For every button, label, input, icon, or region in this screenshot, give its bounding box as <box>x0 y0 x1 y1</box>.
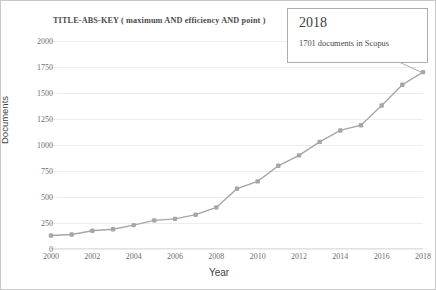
data-point-marker <box>69 232 73 236</box>
series-line <box>51 72 423 235</box>
callout-detail: 1701 documents in Scopus <box>299 39 389 48</box>
y-tick-label: 2000 <box>13 37 53 46</box>
y-tick-label: 1250 <box>13 115 53 124</box>
x-tick-label: 2016 <box>374 252 390 261</box>
x-tick-label: 2008 <box>208 252 224 261</box>
callout-box: 2018 1701 documents in Scopus <box>287 8 428 63</box>
x-tick-label: 2014 <box>332 252 348 261</box>
data-point-marker <box>255 179 259 183</box>
y-tick-label: 1750 <box>13 63 53 72</box>
data-point-marker <box>400 82 404 86</box>
x-tick-label: 2006 <box>167 252 183 261</box>
data-point-marker <box>214 205 218 209</box>
y-tick-label: 1000 <box>13 141 53 150</box>
data-point-marker <box>193 212 197 216</box>
data-point-marker <box>152 218 156 222</box>
plot-area <box>51 41 423 249</box>
x-tick-label: 2002 <box>84 252 100 261</box>
y-tick-label: 500 <box>13 193 53 202</box>
x-tick-label: 2000 <box>43 252 59 261</box>
y-tick-label: 750 <box>13 167 53 176</box>
x-tick-label: 2010 <box>250 252 266 261</box>
chart-title: TITLE-ABS-KEY ( maximum AND efficiency A… <box>53 16 266 25</box>
data-point-marker <box>297 153 301 157</box>
x-tick-label: 2018 <box>415 252 431 261</box>
data-point-marker <box>131 223 135 227</box>
data-point-marker <box>338 128 342 132</box>
data-point-marker <box>90 229 94 233</box>
x-tick-label: 2012 <box>291 252 307 261</box>
data-series-documents <box>51 41 423 249</box>
callout-pointer-line <box>399 62 425 74</box>
data-point-marker <box>379 103 383 107</box>
y-tick-label: 1500 <box>13 89 53 98</box>
data-point-marker <box>235 186 239 190</box>
data-point-marker <box>276 164 280 168</box>
x-axis-title: Year <box>1 267 436 278</box>
data-point-marker <box>111 227 115 231</box>
data-point-marker <box>49 233 53 237</box>
x-tick-label: 2004 <box>126 252 142 261</box>
y-tick-label: 250 <box>13 219 53 228</box>
y-axis-title: Documents <box>0 96 10 144</box>
gridline <box>51 249 423 250</box>
callout-year: 2018 <box>299 15 327 31</box>
data-point-marker <box>317 140 321 144</box>
chart-screenshot: TITLE-ABS-KEY ( maximum AND efficiency A… <box>0 0 436 290</box>
data-point-marker <box>173 217 177 221</box>
data-point-marker <box>359 123 363 127</box>
